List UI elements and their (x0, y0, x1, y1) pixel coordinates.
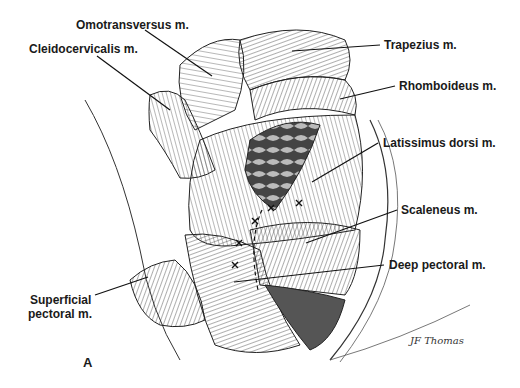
label-latissimus: Latissimus dorsi m. (383, 136, 496, 150)
label-superficial-pectoral-line2: pectoral m. (28, 307, 92, 321)
label-trapezius: Trapezius m. (384, 38, 457, 52)
label-superficial-pectoral-line1: Superficial (30, 293, 91, 307)
muscle-drawing (0, 0, 520, 388)
label-cleidocervicalis: Cleidocervicalis m. (29, 42, 138, 56)
label-scaleneus: Scaleneus m. (401, 203, 478, 217)
leader-cleidocervicalis (97, 56, 170, 110)
label-omotransversus: Omotransversus m. (76, 18, 189, 32)
anatomical-illustration: Omotransversus m. Cleidocervicalis m. Tr… (0, 0, 520, 388)
artist-signature: JF Thomas (410, 334, 464, 348)
label-rhomboideus: Rhomboideus m. (399, 79, 496, 93)
panel-letter: A (83, 356, 92, 370)
label-deep-pectoral: Deep pectoral m. (389, 258, 486, 272)
